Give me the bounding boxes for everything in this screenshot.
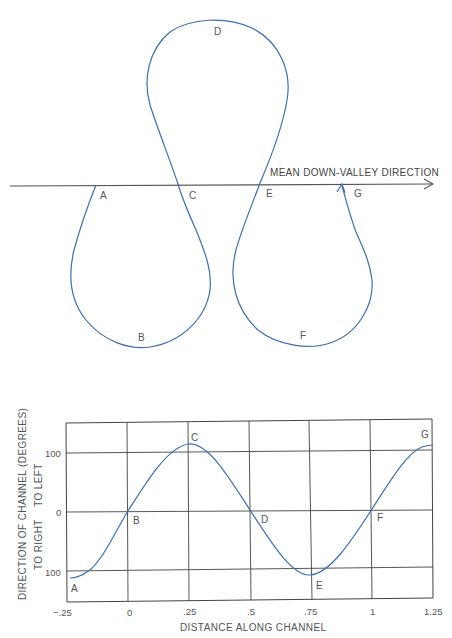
gridline-x-025: [188, 422, 189, 601]
meander-diagram: MEAN DOWN-VALLEY DIRECTION A B C D E F G: [10, 20, 439, 347]
x-tick-025: .25: [183, 606, 196, 617]
x-tick-05: .5: [247, 606, 255, 617]
point-label-d: D: [214, 26, 221, 37]
point-label-g: G: [354, 188, 362, 199]
x-tick-minus025: −.25: [53, 607, 72, 618]
point-label-e: E: [266, 188, 273, 199]
direction-chart: A B C D E F G 100 0 100 −.25 0 .25 .5 .7…: [17, 408, 443, 633]
point-label-a: A: [100, 190, 107, 201]
y-axis-label: DIRECTION OF CHANNEL (DEGREES): [17, 408, 28, 600]
chart-point-a: A: [71, 583, 78, 594]
point-label-c: C: [189, 190, 196, 201]
x-tick-1: 1: [370, 606, 375, 617]
down-valley-label: MEAN DOWN-VALLEY DIRECTION: [270, 167, 439, 178]
point-label-b: B: [138, 332, 145, 343]
chart-point-b: B: [133, 515, 140, 526]
x-tick-0: 0: [127, 607, 132, 618]
x-tick-125: 1.25: [424, 606, 443, 617]
y-axis-sublabel: TO RIGHT TO LEFT: [33, 463, 44, 570]
y-tick-plus100: 100: [45, 448, 61, 459]
x-tick-075: .75: [304, 606, 317, 617]
chart-point-d: D: [261, 514, 268, 525]
gridline-y-minus100: [67, 567, 433, 571]
y-tick-minus100: 100: [45, 567, 61, 578]
channel-path: [71, 20, 372, 347]
chart-point-g: G: [421, 429, 429, 440]
chart-point-c: C: [191, 432, 198, 443]
point-label-f: F: [300, 330, 306, 341]
chart-point-f: F: [377, 512, 383, 523]
chart-point-e: E: [316, 580, 323, 591]
down-valley-axis: [10, 184, 432, 186]
figure: MEAN DOWN-VALLEY DIRECTION A B C D E F G…: [0, 0, 452, 638]
y-tick-0: 0: [56, 507, 61, 518]
x-axis-label: DISTANCE ALONG CHANNEL: [180, 622, 326, 633]
